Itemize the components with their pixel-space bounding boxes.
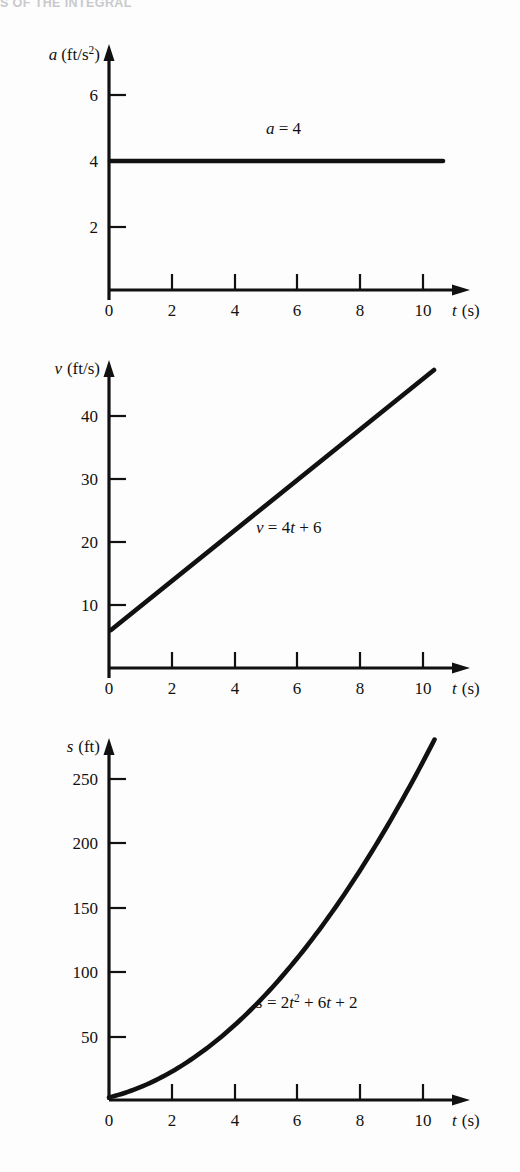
x-tick-label-10: 10	[415, 1111, 432, 1130]
y-axis-title: a(ft/s2)	[49, 44, 100, 64]
y-tick-label-6: 6	[90, 86, 99, 105]
x-axis-arrowhead	[452, 285, 470, 296]
figure-page: S OF THE INTEGRAL 2 4 6 0 2 4	[0, 0, 520, 1172]
x-tick-label-6: 6	[293, 679, 302, 698]
x-axis-units: (s)	[462, 679, 480, 698]
x-tick-label-4: 4	[231, 301, 240, 320]
position-svg-main: 50 100 150 200 250 0 2 4 6 8 10 s(ft) t(…	[0, 712, 520, 1162]
y-axis-title: s(ft)	[67, 737, 100, 756]
y-tick-label-200: 200	[73, 834, 99, 853]
y-axis-arrowhead	[104, 44, 115, 61]
y-tick-label-100: 100	[73, 963, 99, 982]
y-axis-symbol: s	[67, 737, 74, 756]
x-axis-arrowhead	[452, 663, 470, 674]
velocity-curve	[111, 370, 434, 630]
y-axis-arrowhead	[104, 738, 115, 755]
y-tick-label-20: 20	[81, 533, 98, 552]
x-tick-label-0: 0	[105, 1111, 114, 1130]
y-axis-symbol: v	[54, 359, 62, 378]
x-axis-symbol: t	[452, 679, 458, 698]
y-tick-label-50: 50	[81, 1028, 98, 1047]
x-axis-title: t(s)	[452, 1111, 480, 1130]
y-tick-label-40: 40	[81, 407, 98, 426]
y-tick-label-250: 250	[73, 770, 99, 789]
velocity-svg: 10 20 30 40 0 2 4 6 8 10 v(ft/s) t(s)	[0, 348, 520, 698]
curve-label-mid: = 4	[264, 518, 291, 537]
x-axis-units: (s)	[462, 1111, 480, 1130]
y-axis-symbol: a	[49, 45, 58, 64]
acceleration-curve-label: a = 4	[266, 119, 302, 138]
x-axis-symbol: t	[452, 301, 458, 320]
x-tick-label-0: 0	[105, 301, 114, 320]
position-vs-time-graph-canvas: 50 100 150 200 250 0 2 4 6 8 10 s(ft) t(…	[0, 712, 520, 1162]
x-tick-label-6: 6	[293, 1111, 302, 1130]
x-tick-label-8: 8	[356, 1111, 365, 1130]
x-tick-label-2: 2	[168, 1111, 177, 1130]
y-tick-label-2: 2	[90, 218, 99, 237]
x-axis-title: t(s)	[452, 679, 480, 698]
x-tick-label-8: 8	[356, 679, 365, 698]
y-tick-label-30: 30	[81, 470, 98, 489]
curve-label-lhs: a	[266, 119, 275, 138]
y-axis-arrowhead	[104, 360, 115, 377]
x-axis-units: (s)	[462, 301, 480, 320]
x-tick-label-2: 2	[168, 301, 177, 320]
position-curve-label: s = 2t2 + 6t + 2	[256, 992, 358, 1012]
curve-label-rhs: + 2	[331, 993, 358, 1012]
running-head: S OF THE INTEGRAL	[0, 0, 300, 12]
curve-label-mid2: + 6	[300, 993, 327, 1012]
x-tick-label-10: 10	[415, 679, 432, 698]
y-axis-units: (ft/s	[61, 45, 88, 64]
y-axis-units: (ft/s)	[67, 359, 100, 378]
x-axis-symbol: t	[452, 1111, 458, 1130]
velocity-vs-time-graph: 10 20 30 40 0 2 4 6 8 10 v(ft/s) t(s)	[0, 348, 520, 698]
x-tick-label-4: 4	[231, 1111, 240, 1130]
y-axis-units-close: )	[94, 45, 100, 64]
y-axis-title: v(ft/s)	[54, 359, 100, 378]
curve-label-rhs: + 6	[295, 518, 322, 537]
x-axis-arrowhead	[452, 1095, 470, 1106]
curve-label-rhs: = 4	[275, 119, 302, 138]
x-axis-title: t(s)	[452, 301, 480, 320]
curve-label-mid: = 2	[263, 993, 290, 1012]
position-curve	[109, 740, 435, 1098]
acceleration-vs-time-graph: 2 4 6 0 2 4 6 8 10 a(ft/s2) t(s)	[0, 28, 520, 340]
x-tick-label-8: 8	[356, 301, 365, 320]
y-tick-label-150: 150	[73, 899, 99, 918]
y-tick-label-4: 4	[90, 152, 99, 171]
x-tick-label-6: 6	[293, 301, 302, 320]
velocity-curve-label: v = 4t + 6	[256, 518, 321, 537]
y-tick-label-10: 10	[81, 596, 98, 615]
y-axis-units: (ft)	[78, 737, 100, 756]
x-tick-label-2: 2	[168, 679, 177, 698]
x-tick-label-4: 4	[231, 679, 240, 698]
acceleration-svg: 2 4 6 0 2 4 6 8 10 a(ft/s2) t(s)	[0, 28, 520, 340]
x-tick-label-0: 0	[105, 679, 114, 698]
x-tick-label-10: 10	[415, 301, 432, 320]
